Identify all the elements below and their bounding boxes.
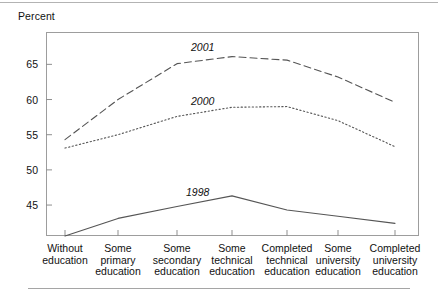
series-line-1998 [65, 196, 395, 236]
series-line-2001 [65, 57, 395, 140]
y-tick-label: 55 [14, 129, 38, 141]
series-line-2000 [65, 107, 395, 149]
series-annotation-1998: 1998 [186, 186, 209, 198]
x-category-label: Completeduniversityeducation [362, 243, 428, 278]
x-category-label: Someprimaryeducation [85, 243, 151, 278]
series-annotation-2000: 2000 [191, 95, 214, 107]
x-category-label-line: Completed [362, 243, 428, 255]
x-category-label-line: Some [85, 243, 151, 255]
y-tick-label: 60 [14, 94, 38, 106]
y-tick-label: 45 [14, 199, 38, 211]
x-category-label-line: education [362, 266, 428, 278]
x-category-label-line: education [85, 266, 151, 278]
y-tick-label: 50 [14, 164, 38, 176]
y-tick-label: 65 [14, 58, 38, 70]
series-annotation-2001: 2001 [191, 41, 214, 53]
